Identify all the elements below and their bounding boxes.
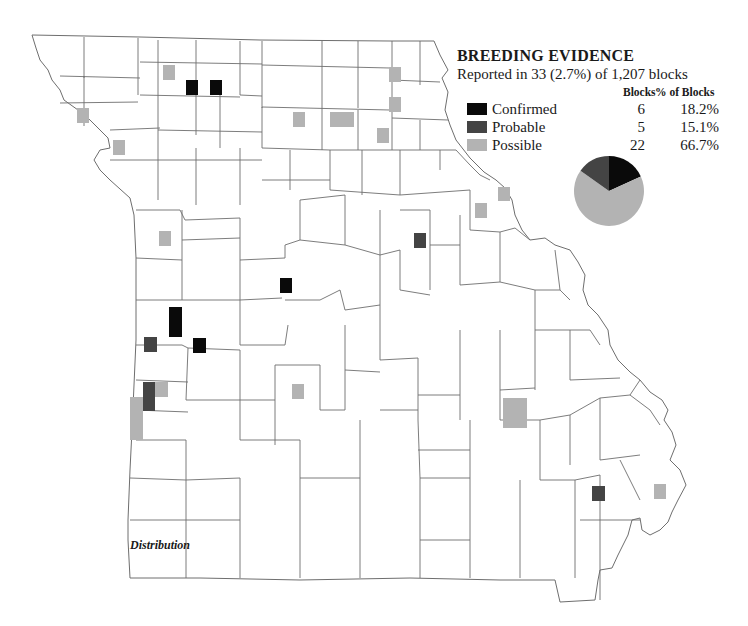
- map-caption: Distribution: [130, 538, 190, 553]
- legend-label: Probable: [492, 118, 545, 136]
- probable-block: [592, 486, 605, 501]
- possible-block: [498, 187, 510, 201]
- possible-swatch-icon: [467, 139, 487, 151]
- confirmed-block: [186, 80, 198, 95]
- possible-block: [292, 384, 304, 399]
- possible-block: [113, 140, 125, 155]
- possible-block: [163, 65, 175, 80]
- legend: BREEDING EVIDENCE Reported in 33 (2.7%) …: [457, 46, 727, 83]
- breeding-evidence-pie-chart: [572, 154, 646, 228]
- column-header-percent: % of Blocks: [655, 86, 714, 98]
- possible-block: [654, 484, 666, 499]
- legend-label: Possible: [492, 136, 542, 154]
- legend-blocks: 5: [607, 118, 645, 136]
- possible-block: [377, 128, 389, 143]
- confirmed-block: [210, 80, 222, 95]
- probable-block: [143, 382, 155, 411]
- legend-title: BREEDING EVIDENCE: [457, 46, 727, 66]
- legend-percent: 66.7%: [653, 136, 719, 154]
- possible-block: [475, 203, 487, 218]
- legend-label: Confirmed: [492, 100, 557, 118]
- possible-block: [330, 112, 354, 127]
- confirmed-block: [169, 307, 182, 337]
- legend-blocks: 6: [607, 100, 645, 118]
- confirmed-block: [280, 278, 292, 293]
- probable-block: [414, 233, 426, 248]
- legend-percent: 18.2%: [653, 100, 719, 118]
- legend-blocks: 22: [607, 136, 645, 154]
- possible-block: [293, 112, 305, 127]
- legend-row-confirmed: Confirmed 6 18.2%: [457, 100, 727, 118]
- legend-row-probable: Probable 5 15.1%: [457, 118, 727, 136]
- probable-block: [144, 337, 157, 352]
- confirmed-block: [193, 338, 206, 353]
- possible-block: [155, 382, 168, 397]
- possible-block: [503, 398, 527, 428]
- legend-percent: 15.1%: [653, 118, 719, 136]
- probable-swatch-icon: [467, 121, 487, 133]
- possible-block: [130, 397, 143, 440]
- possible-block: [389, 97, 401, 112]
- confirmed-swatch-icon: [467, 103, 487, 115]
- possible-block: [77, 108, 89, 123]
- legend-subtitle: Reported in 33 (2.7%) of 1,207 blocks: [457, 65, 727, 83]
- possible-block: [389, 67, 401, 82]
- possible-block: [159, 231, 171, 246]
- column-header-blocks: Blocks: [623, 86, 656, 98]
- legend-row-possible: Possible 22 66.7%: [457, 136, 727, 154]
